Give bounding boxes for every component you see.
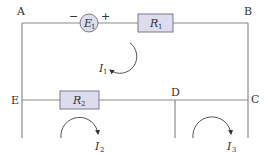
i2-subscript: 2 bbox=[100, 146, 104, 154]
current-loop-i3: I 3 bbox=[193, 117, 237, 154]
resistor-r2: R 2 bbox=[60, 91, 99, 109]
loop-arrow-icon bbox=[193, 117, 231, 138]
i3-subscript: 3 bbox=[232, 146, 236, 154]
current-loop-i1: I 1 bbox=[98, 43, 137, 76]
emf-plus-sign: + bbox=[101, 10, 110, 23]
emf-source: E 1 − + bbox=[69, 10, 110, 32]
current-loop-i2: I 2 bbox=[61, 117, 105, 154]
wires bbox=[22, 23, 248, 138]
circuit-diagram: E 1 − + R 1 R 2 A B C D E I 1 I 2 I 3 bbox=[0, 0, 269, 155]
loop-arrow-icon bbox=[61, 117, 98, 138]
emf-subscript: 1 bbox=[91, 23, 95, 31]
r1-subscript: 1 bbox=[158, 23, 162, 31]
node-label-e: E bbox=[11, 94, 19, 107]
r2-symbol: R bbox=[72, 94, 81, 107]
node-label-a: A bbox=[16, 5, 26, 18]
r1-symbol: R bbox=[149, 17, 158, 30]
node-label-d: D bbox=[171, 86, 180, 99]
node-label-c: C bbox=[251, 93, 259, 106]
node-label-b: B bbox=[244, 5, 252, 18]
i1-subscript: 1 bbox=[103, 68, 107, 76]
resistor-r1: R 1 bbox=[138, 14, 173, 32]
r2-subscript: 2 bbox=[81, 100, 85, 108]
loop-arrow-icon bbox=[110, 43, 137, 73]
emf-minus-sign: − bbox=[69, 10, 78, 23]
